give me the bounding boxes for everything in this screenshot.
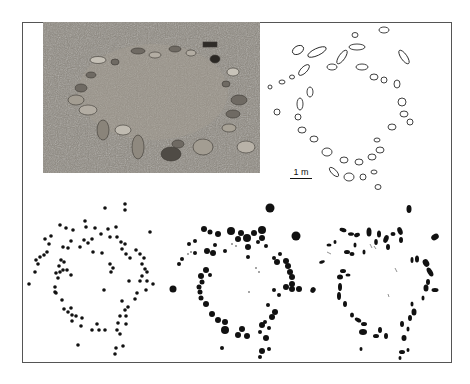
stone-circle-photo [43,22,260,173]
shape-map [300,192,450,362]
scale-bar: 1 m [290,167,312,179]
size-circle-map [162,192,312,362]
scale-bar-label: 1 m [290,167,312,177]
point-map [22,192,172,362]
scale-bar-line [290,178,312,179]
